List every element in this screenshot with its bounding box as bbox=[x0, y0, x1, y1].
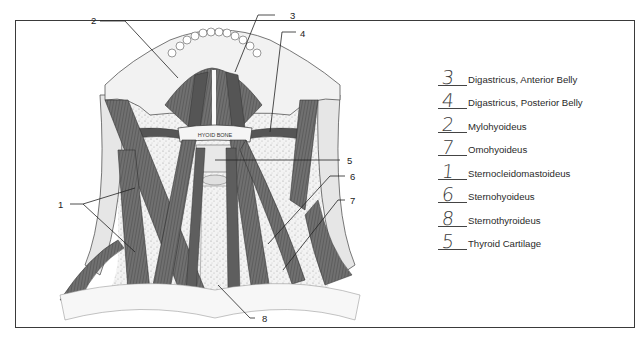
handwritten-answer: 6 bbox=[441, 185, 455, 204]
answer-blank[interactable]: 4 bbox=[438, 86, 467, 109]
legend-term: Omohyoideus bbox=[468, 144, 527, 156]
legend-item: 1 Sternocleidomastoideus bbox=[438, 156, 628, 180]
clavicle-region bbox=[60, 284, 360, 320]
legend-term: Sternothyroideus bbox=[468, 215, 541, 227]
callout-2: 2 bbox=[91, 15, 96, 26]
callout-1: 1 bbox=[58, 199, 63, 210]
callout-8: 8 bbox=[262, 313, 267, 324]
legend-item: 3 Digastricus, Anterior Belly bbox=[438, 62, 628, 86]
answer-blank[interactable]: 1 bbox=[438, 157, 467, 180]
legend-item: 2 Mylohyoideus bbox=[438, 109, 628, 133]
legend-term: Digastricus, Posterior Belly bbox=[468, 97, 583, 109]
hyoid-bone-label: HYOID BONE bbox=[198, 132, 233, 138]
answer-legend: 3 Digastricus, Anterior Belly 4 Digastri… bbox=[438, 62, 628, 250]
callout-3: 3 bbox=[290, 10, 295, 21]
answer-blank[interactable]: 2 bbox=[438, 110, 467, 133]
handwritten-answer: 8 bbox=[441, 209, 455, 228]
callout-7: 7 bbox=[350, 195, 355, 206]
handwritten-answer: 4 bbox=[441, 91, 455, 110]
handwritten-answer: 3 bbox=[441, 68, 455, 87]
handwritten-answer: 5 bbox=[441, 232, 455, 251]
answer-blank[interactable]: 5 bbox=[438, 227, 467, 250]
callout-6: 6 bbox=[350, 171, 355, 182]
answer-blank[interactable]: 7 bbox=[438, 133, 467, 156]
legend-item: 8 Sternothyroideus bbox=[438, 203, 628, 227]
answer-blank[interactable]: 3 bbox=[438, 63, 467, 86]
handwritten-answer: 7 bbox=[441, 138, 455, 157]
handwritten-answer: 1 bbox=[441, 162, 455, 181]
answer-blank[interactable]: 6 bbox=[438, 180, 467, 203]
legend-term: Mylohyoideus bbox=[468, 121, 527, 133]
legend-term: Sternocleidomastoideus bbox=[468, 168, 570, 180]
legend-term: Sternohyoideus bbox=[468, 191, 535, 203]
trachea bbox=[200, 186, 230, 295]
legend-term: Digastricus, Anterior Belly bbox=[468, 74, 577, 86]
callout-5: 5 bbox=[347, 155, 352, 166]
legend-item: 5 Thyroid Cartilage bbox=[438, 227, 628, 251]
handwritten-answer: 2 bbox=[441, 115, 455, 134]
legend-item: 6 Sternohyoideus bbox=[438, 180, 628, 204]
legend-term: Thyroid Cartilage bbox=[468, 238, 541, 250]
legend-item: 7 Omohyoideus bbox=[438, 133, 628, 157]
legend-item: 4 Digastricus, Posterior Belly bbox=[438, 86, 628, 110]
callout-4: 4 bbox=[300, 28, 305, 39]
answer-blank[interactable]: 8 bbox=[438, 204, 467, 227]
